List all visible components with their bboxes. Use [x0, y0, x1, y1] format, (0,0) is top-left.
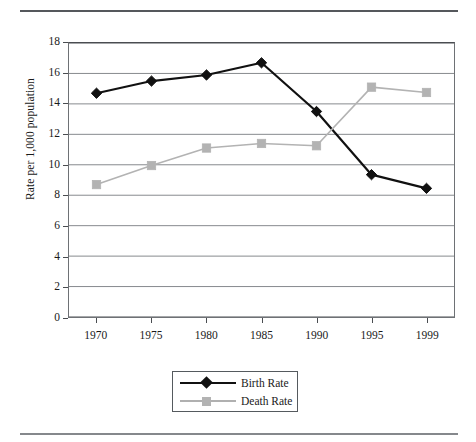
diamond-data-point	[146, 76, 156, 86]
y-tick-label: 16	[34, 67, 60, 79]
legend-label-death-rate: Death Rate	[241, 395, 292, 407]
y-tick-label: 18	[34, 36, 60, 48]
x-tick-mark	[372, 318, 373, 323]
legend-label-birth-rate: Birth Rate	[241, 377, 289, 389]
legend-item-birth-rate: Birth Rate	[173, 374, 297, 392]
x-tick-label: 1995	[349, 330, 395, 342]
legend-item-death-rate: Death Rate	[173, 392, 297, 410]
x-tick-mark	[427, 318, 428, 323]
y-tick-label: 2	[34, 281, 60, 293]
x-tick-mark	[262, 318, 263, 323]
x-tick-label: 1970	[73, 330, 119, 342]
square-data-point	[422, 88, 430, 96]
x-tick-label: 1980	[183, 330, 229, 342]
y-tick-label: 12	[34, 128, 60, 140]
plot-area	[68, 42, 455, 318]
diamond-data-point	[91, 88, 101, 98]
y-tick-label: 14	[34, 97, 60, 109]
y-tick-mark	[63, 318, 68, 319]
x-tick-mark	[96, 318, 97, 323]
y-axis-title: Rate per 1,000 population	[24, 24, 36, 254]
y-tick-label: 10	[34, 159, 60, 171]
diamond-marker-icon	[200, 376, 213, 389]
square-marker-icon	[202, 397, 211, 406]
y-tick-label: 6	[34, 220, 60, 232]
chart-legend: Birth Rate Death Rate	[172, 371, 298, 412]
x-tick-mark	[317, 318, 318, 323]
square-data-point	[202, 144, 210, 152]
diamond-data-point	[421, 183, 431, 193]
square-data-point	[147, 161, 155, 169]
square-data-point	[92, 180, 100, 188]
legend-swatch-death-rate	[178, 393, 238, 409]
diamond-data-point	[201, 70, 211, 80]
y-tick-label: 0	[34, 312, 60, 324]
series-line-death-rate	[96, 87, 426, 184]
plot-canvas	[69, 43, 454, 317]
x-tick-label: 1999	[404, 330, 450, 342]
x-tick-mark	[206, 318, 207, 323]
x-tick-label: 1985	[239, 330, 285, 342]
line-chart-figure: Rate per 1,000 population 02468101214161…	[0, 0, 476, 442]
y-tick-label: 4	[34, 251, 60, 263]
x-tick-label: 1990	[294, 330, 340, 342]
square-data-point	[367, 83, 375, 91]
legend-swatch-birth-rate	[178, 375, 238, 391]
x-tick-label: 1975	[128, 330, 174, 342]
square-data-point	[312, 142, 320, 150]
series-line-birth-rate	[96, 63, 426, 189]
y-tick-label: 8	[34, 189, 60, 201]
square-data-point	[257, 139, 265, 147]
x-tick-mark	[151, 318, 152, 323]
